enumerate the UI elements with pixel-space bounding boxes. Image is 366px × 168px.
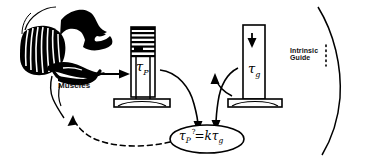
feedback-dashed-arrow <box>68 115 171 146</box>
equation-tau2-subscript: g <box>218 136 223 145</box>
equation-k-symbol: k <box>205 129 212 143</box>
right-enclosing-curve <box>318 7 340 155</box>
intrinsic-guide-line-1: Intrinsic <box>290 47 318 54</box>
equation-tau-subscript: P <box>186 136 191 145</box>
equation-label: τP?=kτg <box>179 130 223 145</box>
tau-p-label: τP <box>136 60 149 77</box>
tau-g-subscript: g <box>255 70 260 79</box>
equation-tau-symbol: τ <box>179 129 186 143</box>
nostril-mark <box>96 33 106 36</box>
incoming-curve-to-left-cylinder <box>211 73 233 96</box>
intrinsic-guide-label: Intrinsic Guide <box>290 47 318 62</box>
muscles-label: Muscles <box>58 82 90 90</box>
equation-equals-sign: = <box>194 129 204 143</box>
right-cylinder-base <box>228 99 282 107</box>
equation-question-mark: ? <box>192 128 196 136</box>
head-illustration <box>20 7 112 118</box>
figure-canvas: Muscles Intrinsic Guide τP τg τP?=kτg <box>0 0 366 168</box>
tongue-to-cylinder-arrow <box>98 70 130 79</box>
intrinsic-guide-line-2: Guide <box>290 54 318 61</box>
tau-p-subscript: P <box>143 68 148 77</box>
tau-g-label: τg <box>248 62 260 79</box>
left-cylinder-base <box>114 99 170 107</box>
